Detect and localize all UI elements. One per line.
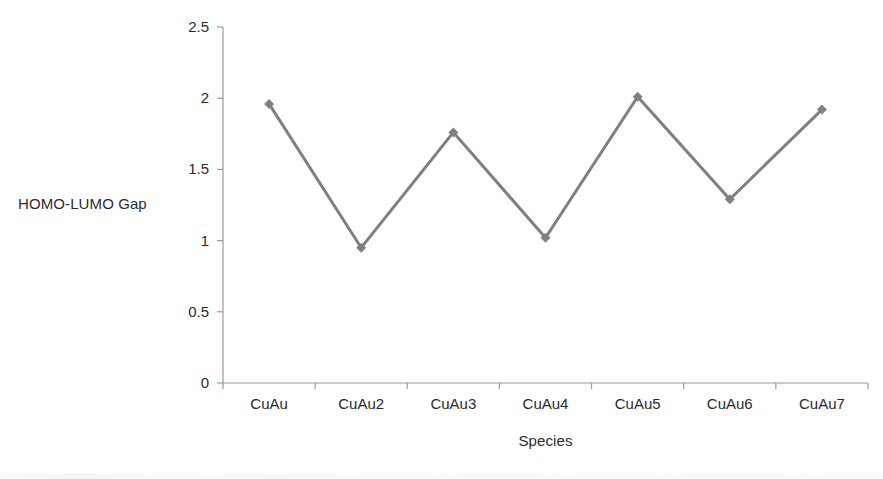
x-axis-tick-label: CuAu [250, 395, 288, 412]
x-axis-tick-label: CuAu5 [615, 395, 661, 412]
x-axis-tick-label: CuAu3 [430, 395, 476, 412]
x-axis-tick-label: CuAu7 [799, 395, 845, 412]
x-axis-tick-marks [223, 383, 868, 389]
y-axis-tick-label: 0.5 [188, 303, 209, 320]
y-axis-tick-marks [217, 27, 223, 383]
y-axis-tick-label: 0 [201, 374, 209, 391]
y-axis-tick-label: 1.5 [188, 160, 209, 177]
x-axis-tick-labels: CuAuCuAu2CuAu3CuAu4CuAu5CuAu6CuAu7 [250, 395, 845, 412]
y-axis-tick-label: 2 [201, 89, 209, 106]
y-axis-tick-label: 1 [201, 232, 209, 249]
chart-plot-area: 00.511.522.5 CuAuCuAu2CuAu3CuAu4CuAu5CuA… [0, 0, 883, 479]
homo-lumo-gap-line-chart: 00.511.522.5 CuAuCuAu2CuAu3CuAu4CuAu5CuA… [0, 0, 883, 479]
y-axis-title: HOMO-LUMO Gap [18, 195, 188, 212]
x-axis-title: Species [223, 432, 868, 449]
x-axis-tick-label: CuAu6 [707, 395, 753, 412]
y-axis-tick-labels: 00.511.522.5 [188, 18, 209, 391]
x-axis-tick-label: CuAu4 [523, 395, 569, 412]
series-line-homo-lumo-gap [269, 97, 822, 248]
x-axis-tick-label: CuAu2 [338, 395, 384, 412]
y-axis-tick-label: 2.5 [188, 18, 209, 35]
